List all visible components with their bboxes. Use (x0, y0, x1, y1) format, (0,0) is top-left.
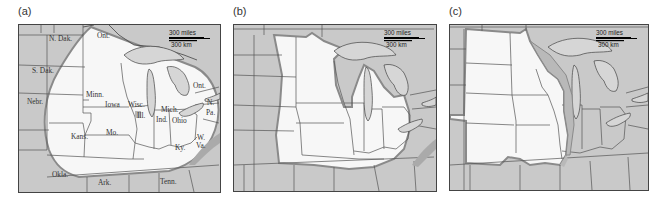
map-a: 300 miles 300 km N. Dak.S. Dak.Nebr.Minn… (18, 24, 221, 193)
state-label: Ont. (97, 31, 110, 40)
state-label: Pa. (206, 108, 215, 117)
scale-bar-c: 300 miles 300 km (596, 29, 637, 48)
map-a-svg: 300 miles 300 km N. Dak.S. Dak.Nebr.Minn… (19, 25, 220, 192)
state-label: Ind. (156, 115, 168, 124)
scale-miles-a: 300 miles (169, 29, 196, 36)
state-label: N. Dak. (49, 34, 72, 43)
state-label: Iowa (105, 100, 120, 109)
state-label: Mich. (161, 105, 179, 114)
panel-a: (a) (0, 0, 222, 203)
map-b-svg: 300 miles 300 km (234, 25, 436, 191)
panel-b: (b) (222, 0, 444, 203)
state-label: N. (207, 98, 214, 107)
state-label: Ky. (175, 143, 186, 152)
state-label: Wisc. (128, 100, 145, 109)
state-label: Minn. (86, 90, 104, 99)
scale-km-a: 300 km (171, 41, 192, 48)
scale-bar-a: 300 miles 300 km (169, 29, 210, 48)
panel-label-c: (c) (449, 5, 462, 17)
scale-km-c: 300 km (598, 41, 619, 48)
state-label: Ark. (98, 178, 111, 187)
state-label: S. Dak. (32, 66, 54, 75)
map-b: 300 miles 300 km (233, 24, 437, 192)
scale-km-b: 300 km (386, 41, 407, 48)
map-c-svg: 300 miles 300 km (450, 25, 648, 190)
state-label: Ohio (172, 116, 187, 125)
state-label: Tenn. (160, 177, 177, 186)
scale-miles-c: 300 miles (596, 29, 623, 36)
state-label: Ill. (137, 111, 146, 120)
state-label: Va. (196, 141, 206, 150)
state-label: Mo. (106, 128, 118, 137)
panel-label-a: (a) (18, 5, 31, 17)
state-label: Kans. (71, 132, 88, 141)
range-region-c (450, 29, 568, 165)
scale-miles-b: 300 miles (384, 29, 411, 36)
map-c: 300 miles 300 km (449, 24, 649, 191)
state-label: Nebr. (27, 97, 43, 106)
state-label: Ont. (193, 81, 206, 90)
scale-bar-b: 300 miles 300 km (384, 29, 425, 48)
state-label: Okla. (52, 170, 68, 179)
panel-c: (c) (443, 0, 665, 203)
panel-label-b: (b) (233, 5, 246, 17)
